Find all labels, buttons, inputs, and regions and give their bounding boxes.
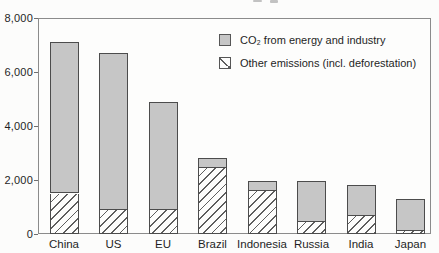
y-axis-tick-mark bbox=[34, 234, 38, 235]
bar-china-energy-segment bbox=[50, 42, 79, 193]
diagonal-hatch-swatch-icon bbox=[219, 57, 231, 69]
y-axis-tick-mark bbox=[34, 180, 38, 181]
y-axis-tick-label: 6,000 bbox=[1, 66, 33, 78]
y-axis-tick-mark bbox=[34, 72, 38, 73]
gray-fill-swatch-icon bbox=[219, 34, 231, 46]
legend-label-energy: CO₂ from energy and industry bbox=[240, 34, 386, 46]
x-axis-label-eu: EU bbox=[155, 238, 171, 250]
bar-japan-energy-segment bbox=[396, 199, 425, 231]
y-axis-tick-label: 2,000 bbox=[1, 174, 33, 186]
emissions-stacked-bar-chart: 02,0004,0006,0008,000ChinaUSEUBrazilIndo… bbox=[0, 0, 439, 253]
x-axis-label-japan: Japan bbox=[395, 238, 426, 250]
bar-indonesia-other-segment bbox=[248, 191, 277, 234]
x-axis-label-russia: Russia bbox=[294, 238, 329, 250]
bar-eu-other-segment bbox=[149, 210, 178, 234]
x-axis-label-us: US bbox=[106, 238, 122, 250]
bar-brazil-other-segment bbox=[198, 168, 227, 234]
bar-japan-other-segment bbox=[396, 231, 425, 234]
bar-us-energy-segment bbox=[99, 53, 128, 210]
y-axis-tick-mark bbox=[34, 126, 38, 127]
x-axis-label-india: India bbox=[349, 238, 374, 250]
x-axis-label-indonesia: Indonesia bbox=[237, 238, 287, 250]
bar-eu-energy-segment bbox=[149, 102, 178, 210]
cropped-title-remnant bbox=[270, 0, 278, 3]
legend: CO₂ from energy and industry Other emiss… bbox=[219, 33, 416, 79]
bar-russia-other-segment bbox=[297, 222, 326, 234]
y-axis-tick-mark bbox=[34, 18, 38, 19]
x-axis-label-china: China bbox=[49, 238, 79, 250]
bar-russia-energy-segment bbox=[297, 181, 326, 222]
bar-indonesia-energy-segment bbox=[248, 181, 277, 191]
bar-brazil-energy-segment bbox=[198, 158, 227, 167]
legend-item-energy: CO₂ from energy and industry bbox=[219, 33, 416, 46]
bar-us-other-segment bbox=[99, 210, 128, 234]
y-axis-tick-label: 0 bbox=[1, 228, 33, 240]
bar-china-other-segment bbox=[50, 194, 79, 235]
x-axis-label-brazil: Brazil bbox=[198, 238, 227, 250]
bar-india-other-segment bbox=[347, 216, 376, 234]
cropped-title-remnant bbox=[253, 0, 262, 2]
y-axis-tick-label: 8,000 bbox=[1, 12, 33, 24]
bar-india-energy-segment bbox=[347, 185, 376, 216]
legend-label-other: Other emissions (incl. deforestation) bbox=[240, 57, 416, 69]
y-axis-tick-label: 4,000 bbox=[1, 120, 33, 132]
legend-item-other: Other emissions (incl. deforestation) bbox=[219, 56, 416, 69]
